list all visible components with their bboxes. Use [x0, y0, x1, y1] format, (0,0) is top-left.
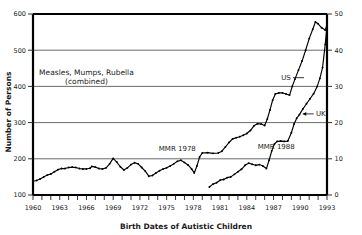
series-point-us — [109, 163, 111, 165]
series-point-us — [232, 138, 234, 140]
series-point-us — [317, 23, 319, 25]
series-point-us — [272, 99, 274, 101]
series-point-us — [235, 137, 237, 139]
series-point-us — [257, 123, 259, 125]
series-point-us — [162, 168, 164, 170]
x-tick-label: 1975 — [158, 204, 175, 212]
series-point-us — [169, 165, 171, 167]
series-point-uk — [223, 178, 225, 180]
series-point-us — [191, 168, 193, 170]
series-point-us — [312, 28, 314, 30]
series-label-us: US — [281, 74, 291, 82]
y-tick-label-right: 10 — [335, 155, 343, 163]
series-point-us — [274, 93, 276, 95]
series-point-uk — [319, 77, 321, 79]
series-point-us — [82, 168, 84, 170]
series-point-us — [324, 29, 326, 31]
series-point-uk — [265, 168, 267, 170]
series-point-us — [43, 176, 45, 178]
series-point-us — [159, 170, 161, 172]
series-point-uk — [287, 140, 289, 142]
series-point-uk — [322, 67, 324, 69]
x-tick-label: 1972 — [132, 204, 149, 212]
series-point-us — [176, 160, 178, 162]
series-point-us — [155, 172, 157, 174]
line-chart-figure: 100200300400500600 01020304050 196019631… — [0, 0, 362, 235]
series-point-uk — [212, 183, 214, 185]
series-point-us — [224, 146, 226, 148]
series-point-us — [305, 49, 307, 51]
y-tick-label-left: 500 — [14, 47, 26, 55]
series-point-us — [294, 78, 296, 80]
series-point-us — [130, 164, 132, 166]
series-point-us — [166, 167, 168, 169]
series-point-us — [180, 159, 182, 161]
series-point-us — [228, 142, 230, 144]
series-point-us — [78, 168, 80, 170]
y-tick-label-right: 0 — [335, 191, 339, 199]
y-tick-label-right: 50 — [335, 10, 343, 18]
x-tick-label: 1981 — [212, 204, 229, 212]
series-point-us — [137, 163, 139, 165]
x-tick-label: 1990 — [292, 204, 309, 212]
series-label-uk: UK — [316, 110, 326, 118]
series-point-uk — [226, 177, 228, 179]
series-point-us — [98, 168, 100, 170]
y-tick-label-right: 40 — [335, 47, 343, 55]
x-tick-label: 1987 — [265, 204, 282, 212]
series-point-us — [89, 167, 91, 169]
y-tick-label-left: 300 — [14, 119, 26, 127]
series-point-uk — [258, 164, 260, 166]
series-point-us — [148, 175, 150, 177]
series-point-us — [36, 180, 38, 182]
x-tick-label: 1966 — [78, 204, 95, 212]
series-point-us — [282, 92, 284, 94]
series-point-us — [134, 162, 136, 164]
mmr-1978-label: MMR 1978 — [159, 145, 196, 153]
x-tick-label: 1984 — [239, 204, 256, 212]
x-tick-label: 1969 — [105, 204, 122, 212]
series-point-us — [212, 152, 214, 154]
y-axis-title: Number of Persons — [4, 71, 13, 152]
series-point-us — [239, 136, 241, 138]
series-point-us — [86, 168, 88, 170]
series-point-us — [105, 167, 107, 169]
series-point-uk — [293, 123, 295, 125]
series-point-us — [266, 118, 268, 120]
series-point-uk — [268, 159, 270, 161]
series-point-us — [298, 69, 300, 71]
series-point-us — [102, 168, 104, 170]
series-point-uk — [326, 25, 328, 27]
series-point-uk — [230, 176, 232, 178]
series-point-us — [91, 165, 93, 167]
series-point-uk — [237, 171, 239, 173]
series-point-us — [46, 174, 48, 176]
series-point-uk — [233, 173, 235, 175]
series-point-uk — [216, 182, 218, 184]
series-point-us — [116, 161, 118, 163]
series-point-us — [301, 60, 303, 62]
series-point-us — [39, 178, 41, 180]
series-point-us — [264, 125, 266, 127]
series-point-us — [173, 163, 175, 165]
series-point-uk — [309, 98, 311, 100]
series-point-uk — [244, 164, 246, 166]
series-point-us — [187, 164, 189, 166]
series-point-us — [201, 152, 203, 154]
series-point-us — [289, 94, 291, 96]
series-point-uk — [262, 165, 264, 167]
series-point-us — [249, 130, 251, 132]
x-tick-label: 1993 — [319, 204, 336, 212]
series-point-uk — [208, 186, 210, 188]
series-point-uk — [241, 168, 243, 170]
x-axis-title: Birth Dates of Autistic Children — [120, 222, 252, 231]
series-point-us — [184, 161, 186, 163]
series-point-uk — [280, 140, 282, 142]
series-point-us — [50, 173, 52, 175]
y-tick-label-right: 30 — [335, 83, 343, 91]
series-point-us — [68, 167, 70, 169]
series-point-us — [126, 167, 128, 169]
series-point-us — [119, 166, 121, 168]
y-tick-label-left: 600 — [14, 10, 26, 18]
series-point-uk — [251, 163, 253, 165]
